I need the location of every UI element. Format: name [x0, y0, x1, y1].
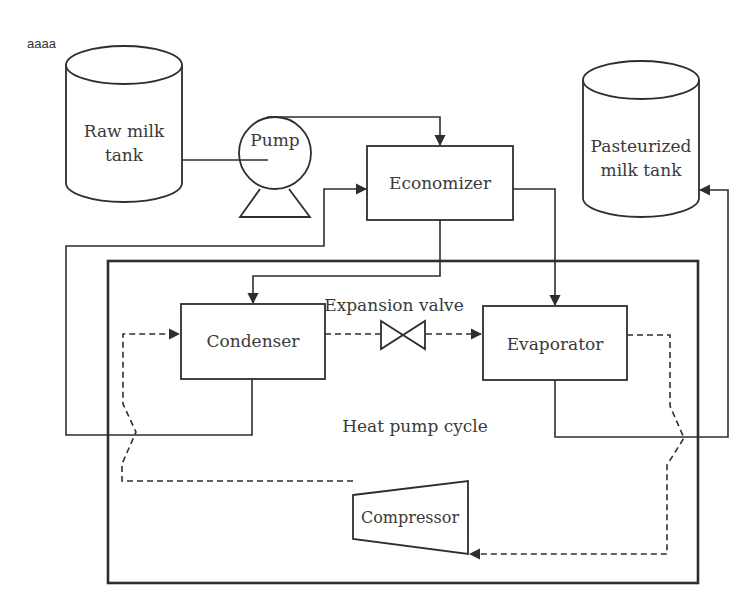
economizer-label: Economizer	[389, 173, 492, 193]
line-economizer-to-evaporator	[513, 189, 555, 305]
milk-pasteurization-heat-pump-diagram: aaaa Raw milk tank Pump Economizer Paste…	[0, 0, 754, 612]
heat-pump-cycle-label: Heat pump cycle	[342, 416, 488, 436]
evaporator-label: Evaporator	[507, 334, 605, 354]
corner-note: aaaa	[27, 36, 57, 51]
pump: Pump	[239, 117, 311, 217]
raw-milk-tank: Raw milk tank	[66, 46, 182, 202]
economizer: Economizer	[367, 146, 513, 220]
expansion-valve: Expansion valve	[324, 295, 464, 349]
raw-milk-tank-label-line2: tank	[105, 145, 144, 165]
pasteurized-milk-tank: Pasteurized milk tank	[583, 61, 699, 217]
pasteurized-tank-label-line2: milk tank	[601, 160, 683, 180]
compressor: Compressor	[353, 481, 468, 554]
expansion-valve-label: Expansion valve	[324, 295, 464, 315]
pasteurized-tank-label-line1: Pasteurized	[591, 136, 692, 156]
evaporator: Evaporator	[483, 306, 627, 380]
pump-label: Pump	[250, 130, 300, 150]
condenser: Condenser	[181, 304, 325, 379]
refrigerant-evaporator-to-compressor	[470, 335, 684, 554]
line-condenser-to-economizer	[66, 189, 366, 435]
compressor-label: Compressor	[361, 508, 459, 527]
condenser-label: Condenser	[207, 331, 301, 351]
raw-milk-tank-label-line1: Raw milk	[84, 121, 165, 141]
refrigerant-compressor-to-condenser	[122, 334, 353, 481]
line-evaporator-to-pasteurized-tank	[555, 190, 728, 437]
expansion-valve-icon	[381, 321, 425, 349]
